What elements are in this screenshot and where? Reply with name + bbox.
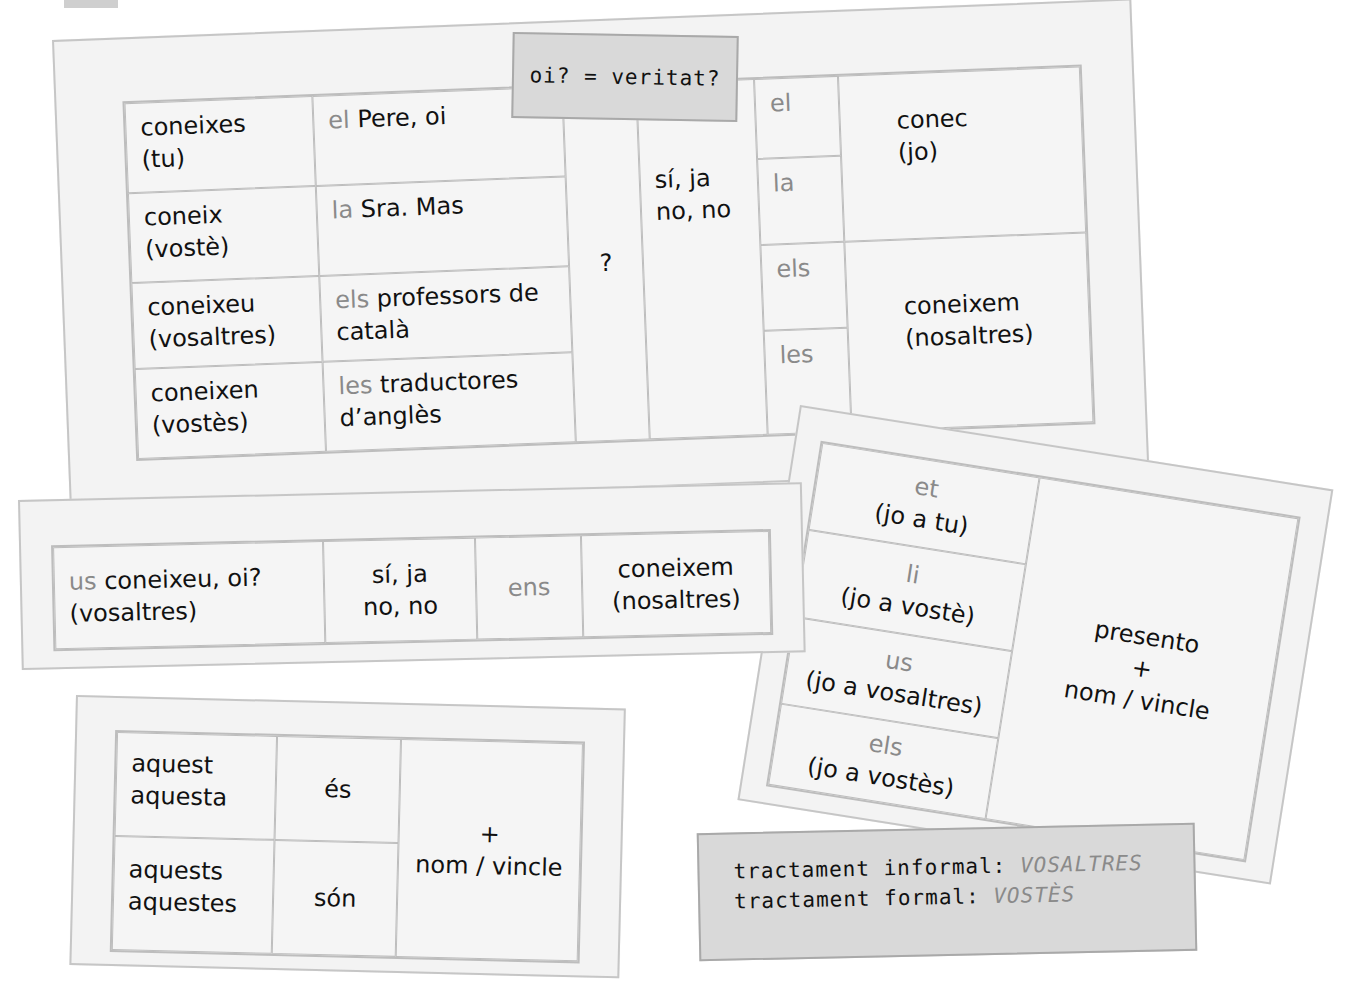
presento-verb-cell: presento + nom / vincle bbox=[986, 477, 1299, 860]
answer-cell: sí, ja no, no bbox=[636, 79, 768, 439]
article-text: els bbox=[335, 285, 370, 314]
object-cell: la Sra. Mas bbox=[316, 176, 569, 276]
question-mark-cell: ? bbox=[562, 84, 650, 443]
informal-value: VOSALTRES bbox=[1020, 851, 1143, 878]
verb-es: és bbox=[324, 773, 352, 806]
answer-no: no, no bbox=[655, 193, 744, 228]
pronoun-text: la bbox=[772, 169, 794, 198]
us-answer-cell: sí, ja no, no bbox=[323, 538, 477, 643]
pronoun-text: li bbox=[904, 558, 922, 592]
oi-note: oi? = veritat? bbox=[511, 32, 738, 122]
oi-note-text: oi? = veritat? bbox=[529, 63, 720, 90]
subject-text: (tu) bbox=[141, 138, 300, 176]
conjugation-grid: coneixes (tu) coneix (vostè) coneixeu (v… bbox=[122, 64, 1095, 461]
verb-cell: coneixen (vostès) bbox=[135, 362, 326, 459]
plural-cell: aquests aquestes bbox=[112, 836, 275, 954]
object-text: Sra. Mas bbox=[360, 191, 464, 223]
demonstrative-text: aquest bbox=[131, 747, 262, 782]
demonstrative-text: aquests bbox=[128, 853, 259, 888]
verb-son: són bbox=[314, 882, 357, 915]
us-pronoun: us bbox=[69, 567, 97, 596]
us-question-cell: us coneixeu, oi? (vosaltres) bbox=[53, 541, 325, 649]
article-text: les bbox=[338, 371, 373, 400]
object-cell: les traductores d’anglès bbox=[323, 352, 576, 452]
pronoun-text: el bbox=[769, 89, 791, 118]
complement-text: nom / vincle bbox=[415, 848, 563, 884]
singular-cell: aquest aquesta bbox=[115, 732, 277, 840]
pronoun-text: et bbox=[912, 470, 941, 505]
article-text: el bbox=[328, 106, 350, 135]
question-mark: ? bbox=[599, 247, 613, 279]
answer-yes: sí, ja bbox=[654, 161, 743, 196]
object-cell: els professors de català bbox=[319, 266, 572, 362]
subject-text: (vostè) bbox=[144, 228, 303, 266]
reply-subject: (nosaltres) bbox=[904, 315, 1089, 354]
reply-cell: coneixem (nosaltres) bbox=[844, 232, 1093, 431]
plus-sign: + bbox=[479, 818, 500, 850]
pronoun-text: us bbox=[883, 644, 915, 680]
object-text: Pere, oi bbox=[357, 102, 447, 133]
us-grid: us coneixeu, oi? (vosaltres) sí, ja no, … bbox=[51, 529, 773, 651]
plus-sign: + bbox=[1130, 651, 1155, 686]
formal-value: VOSTÈS bbox=[993, 882, 1075, 908]
answer-no: no, no bbox=[363, 590, 439, 624]
ens-pronoun: ens bbox=[508, 571, 551, 604]
us-card: us coneixeu, oi? (vosaltres) sí, ja no, … bbox=[18, 482, 806, 670]
verb-cell: coneixes (tu) bbox=[124, 96, 315, 193]
singular-verb-cell: és bbox=[275, 736, 402, 843]
demonstratives-grid: aquest aquesta és aquests aquestes són +… bbox=[110, 730, 585, 963]
pronoun-cell: la bbox=[757, 156, 844, 245]
presento-grid: et (jo a tu) li (jo a vostè) us (jo a vo… bbox=[766, 441, 1301, 863]
demonstratives-card: aquest aquesta és aquests aquestes són +… bbox=[69, 695, 625, 978]
subject-text: (vostès) bbox=[151, 403, 310, 441]
presento-card: et (jo a tu) li (jo a vostè) us (jo a vo… bbox=[737, 405, 1333, 885]
reply-subject: (jo) bbox=[897, 130, 1082, 169]
pronoun-cell: els bbox=[760, 242, 847, 331]
reply-subject: (nosaltres) bbox=[612, 583, 741, 618]
tractament-note: tractament informal: VOSALTRES tractamen… bbox=[697, 823, 1198, 961]
pronoun-text: els bbox=[776, 254, 811, 283]
us-question: coneixeu, oi? bbox=[104, 563, 262, 595]
article-text: la bbox=[331, 196, 353, 225]
demonstrative-text: aquesta bbox=[130, 779, 261, 814]
complement-cell: + nom / vincle bbox=[396, 739, 583, 961]
formal-label: tractament formal: bbox=[734, 884, 980, 913]
answer-yes: sí, ja bbox=[372, 558, 429, 591]
verb-cell: coneixeu (vosaltres) bbox=[131, 276, 322, 369]
ens-cell: ens bbox=[475, 535, 583, 639]
verb-cell: coneix (vostè) bbox=[128, 186, 319, 283]
gloss-text: (jo a tu) bbox=[872, 496, 971, 542]
us-reply-cell: coneixem (nosaltres) bbox=[581, 531, 771, 637]
informal-label: tractament informal: bbox=[733, 854, 1006, 884]
demonstrative-text: aquestes bbox=[128, 885, 259, 920]
pronoun-cell: el bbox=[754, 76, 841, 159]
header-marker bbox=[64, 0, 118, 8]
us-subject: (vosaltres) bbox=[69, 592, 310, 629]
subject-text: (vosaltres) bbox=[148, 317, 307, 355]
reply-cell: conec (jo) bbox=[838, 67, 1086, 242]
plural-verb-cell: són bbox=[272, 840, 399, 957]
pronoun-text: les bbox=[779, 340, 814, 369]
pronoun-text: els bbox=[867, 727, 906, 764]
reply-verb: coneixem bbox=[617, 551, 734, 586]
